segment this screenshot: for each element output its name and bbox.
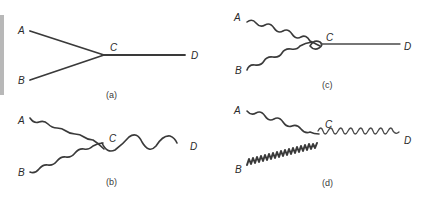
panel-a: A B C D (a): [17, 25, 198, 100]
label-c: C: [110, 42, 118, 53]
label-b: B: [18, 75, 25, 86]
label-c: C: [326, 32, 334, 43]
label-d: D: [191, 50, 198, 61]
coiled-b-to-c: [247, 143, 317, 165]
line-b-to-c: [30, 55, 104, 80]
label-d: D: [404, 41, 411, 52]
label-d: D: [190, 141, 197, 152]
feynman-vertex-diagrams: A B C D (a) A B C D (c) A B C D (b) A B …: [0, 0, 431, 198]
wavy-b-to-c: [30, 143, 103, 173]
caption-c: (c): [322, 80, 333, 90]
label-b: B: [18, 167, 25, 178]
label-a: A: [17, 115, 25, 126]
edge-bar: [0, 15, 4, 95]
caption-a: (a): [106, 90, 117, 100]
label-d: D: [404, 135, 411, 146]
label-b: B: [235, 65, 242, 76]
wavy-a-to-c: [30, 118, 104, 149]
panel-d: A B C D (d): [233, 105, 411, 188]
label-a: A: [17, 25, 25, 36]
label-a: A: [233, 12, 241, 23]
label-a: A: [233, 105, 241, 116]
caption-d: (d): [322, 178, 333, 188]
panel-b: A B C D (b): [17, 115, 197, 187]
wavy-a-to-c: [247, 111, 319, 134]
label-b: B: [235, 164, 242, 175]
panel-c: A B C D (c): [233, 12, 411, 90]
caption-b: (b): [106, 177, 117, 187]
line-a-to-c: [30, 31, 104, 55]
label-c: C: [325, 119, 333, 130]
wavy-b-to-c: [247, 42, 312, 70]
label-c: C: [109, 133, 117, 144]
